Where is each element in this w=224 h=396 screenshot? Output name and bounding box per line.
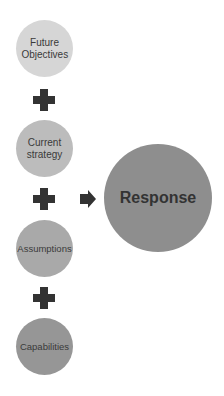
node-label: Current strategy xyxy=(23,137,67,161)
node-assumptions: Assumptions xyxy=(16,220,73,277)
plus-icon xyxy=(33,287,55,309)
node-label: Capabilities xyxy=(20,341,69,353)
plus-icon xyxy=(33,188,55,210)
plus-icon xyxy=(33,89,55,111)
node-current-strategy: Current strategy xyxy=(16,120,73,177)
node-response: Response xyxy=(104,144,212,252)
arrow-right-icon xyxy=(80,190,96,208)
node-label: Response xyxy=(120,189,196,207)
node-capabilities: Capabilities xyxy=(16,318,73,375)
node-future-objectives: Future Objectives xyxy=(16,20,73,77)
node-label: Future Objectives xyxy=(22,37,68,61)
node-label: Assumptions xyxy=(17,243,71,255)
